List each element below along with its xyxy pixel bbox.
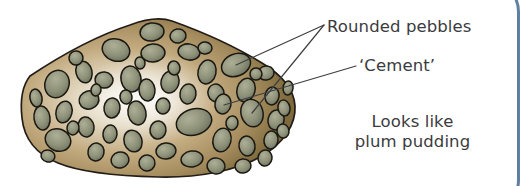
label-cement: ‘Cement’ bbox=[359, 56, 435, 76]
label-rounded-pebbles: Rounded pebbles bbox=[327, 17, 471, 37]
label-plum-pudding-line2: plum pudding bbox=[330, 132, 495, 152]
label-plum-pudding-line1: Looks like bbox=[372, 112, 454, 131]
label-plum-pudding: Looks like plum pudding bbox=[330, 112, 495, 152]
figure-labels: Rounded pebbles ‘Cement’ Looks like plum… bbox=[0, 0, 532, 186]
figure-canvas: Rounded pebbles ‘Cement’ Looks like plum… bbox=[0, 0, 532, 186]
